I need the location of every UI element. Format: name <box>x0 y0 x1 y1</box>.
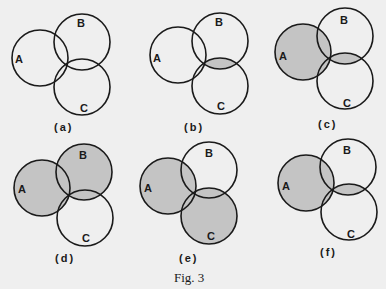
set-label-a: A <box>144 182 152 194</box>
set-label-a: A <box>153 52 161 64</box>
panel-b: A B C (b) <box>150 13 248 133</box>
panel-label: (c) <box>318 118 337 130</box>
set-label-b: B <box>215 16 223 28</box>
set-label-a: A <box>18 183 26 195</box>
set-label-b: B <box>340 14 348 26</box>
set-label-b: B <box>205 147 213 159</box>
set-label-b: B <box>79 149 87 161</box>
panel-e: A B C (e) <box>140 142 237 264</box>
set-label-a: A <box>279 50 287 62</box>
set-label-c: C <box>347 228 355 240</box>
set-label-c: C <box>80 102 88 114</box>
set-label-b: B <box>343 144 351 156</box>
set-label-c: C <box>217 100 225 112</box>
panel-c: A B C (c) <box>275 8 373 130</box>
set-label-c: C <box>82 232 90 244</box>
panel-a: A B C (a) <box>12 14 110 133</box>
panel-f: A B C (f) <box>278 139 377 258</box>
panel-d: A B C (d) <box>14 144 113 264</box>
panel-label: (e) <box>179 252 198 264</box>
panel-label: (a) <box>54 121 73 133</box>
panel-label: (b) <box>184 121 204 133</box>
panel-label: (f) <box>320 246 337 258</box>
venn-figure: A B C (a) A B C (b) A B C (c) A B C (d) <box>0 0 386 289</box>
set-label-a: A <box>15 53 23 65</box>
set-label-a: A <box>282 180 290 192</box>
set-label-b: B <box>77 17 85 29</box>
set-label-c: C <box>343 97 351 109</box>
panel-label: (d) <box>55 252 75 264</box>
set-label-c: C <box>207 230 215 242</box>
figure-caption: Fig. 3 <box>174 270 204 285</box>
